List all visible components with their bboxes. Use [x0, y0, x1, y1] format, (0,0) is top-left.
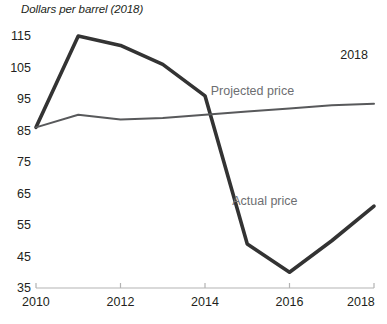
- annotation-year-2018: 2018: [340, 49, 368, 62]
- series-line-actual-price: [36, 36, 374, 272]
- x-axis: 20102012201420162018: [0, 296, 387, 316]
- chart-container: Dollars per barrel (2018) 35455565758595…: [0, 0, 387, 324]
- series-label-actual-price: Actual price: [232, 195, 297, 208]
- plot-area: [0, 0, 387, 324]
- x-tick-label: 2018: [347, 296, 375, 309]
- x-tick-label: 2012: [107, 296, 135, 309]
- series-label-projected-price: Projected price: [211, 85, 294, 98]
- x-tick-label: 2016: [276, 296, 304, 309]
- x-axis-line: [36, 283, 374, 288]
- data-series-group: [36, 36, 374, 272]
- series-line-projected-price: [36, 104, 374, 128]
- x-tick-label: 2010: [22, 296, 50, 309]
- x-axis-line-group: [36, 283, 374, 288]
- x-tick-label: 2014: [191, 296, 219, 309]
